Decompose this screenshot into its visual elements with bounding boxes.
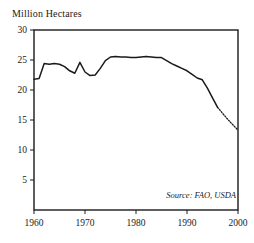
x-tick-label: 1970 <box>76 218 95 228</box>
x-axis-ticks: 19601970198019902000 <box>25 210 248 228</box>
x-tick-label: 1990 <box>178 218 197 228</box>
x-tick-label: 2000 <box>229 218 248 228</box>
x-tick-label: 1980 <box>127 218 146 228</box>
y-axis-ticks: 51015202530 <box>18 25 35 185</box>
y-tick-label: 25 <box>18 55 28 65</box>
y-tick-label: 20 <box>18 85 28 95</box>
y-tick-label: 15 <box>18 115 28 125</box>
chart-plot-area: 51015202530 19601970198019902000 <box>0 0 254 243</box>
y-tick-label: 30 <box>18 25 28 35</box>
x-tick-label: 1960 <box>25 218 44 228</box>
chart-figure: Million Hectares 51015202530 19601970198… <box>0 0 254 243</box>
y-tick-label: 10 <box>18 145 28 155</box>
source-note: Source: FAO, USDA <box>166 190 236 200</box>
y-tick-label: 5 <box>22 175 27 185</box>
